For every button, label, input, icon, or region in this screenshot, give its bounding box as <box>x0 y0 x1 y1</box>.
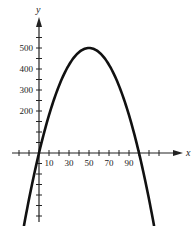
y-tick-label: 200 <box>20 106 34 116</box>
ticks <box>19 38 159 217</box>
x-tick-label: 10 <box>45 158 55 168</box>
parabola-chart: 1030507090200300400500 x y <box>0 0 194 226</box>
x-tick-label: 50 <box>85 158 95 168</box>
x-tick-label: 70 <box>105 158 115 168</box>
parabola-curve <box>24 48 154 225</box>
x-axis-arrow-icon <box>173 150 183 156</box>
chart-svg: 1030507090200300400500 x y <box>0 0 194 226</box>
x-axis-label: x <box>185 147 191 158</box>
y-tick-label: 300 <box>20 85 34 95</box>
x-tick-label: 90 <box>125 158 135 168</box>
y-tick-label: 400 <box>20 64 34 74</box>
y-axis-label: y <box>35 4 41 15</box>
y-axis-arrow-icon <box>36 17 42 27</box>
y-tick-label: 500 <box>20 43 34 53</box>
x-tick-label: 30 <box>65 158 75 168</box>
tick-labels: 1030507090200300400500 <box>20 43 135 168</box>
